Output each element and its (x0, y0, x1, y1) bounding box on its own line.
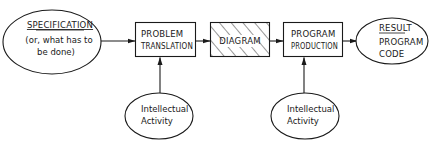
intellectual-activity-1-line1: Intellectual (141, 104, 188, 114)
intellectual-activity-2-line2: Activity (287, 116, 319, 126)
program-production-box (284, 23, 343, 57)
problem-translation-line1: PROBLEM (141, 29, 183, 39)
flow-diagram: SPECIFICATION (or, what has to be done) … (0, 0, 445, 144)
program-production-line1: PROGRAM (291, 29, 335, 39)
diagram-label: DIAGRAM (219, 36, 260, 46)
specification-line1: (or, what has to (25, 35, 92, 45)
specification-line2: be done) (37, 47, 75, 57)
intellectual-activity-1-line2: Activity (141, 116, 173, 126)
problem-translation-node: PROBLEM TRANSLATION (136, 23, 196, 57)
intellectual-activity-2-line1: Intellectual (287, 104, 334, 114)
program-production-line2: PRODUCTION (291, 41, 338, 51)
problem-translation-line2: TRANSLATION (140, 41, 193, 51)
result-node: RESULT PROGRAM CODE (356, 18, 428, 64)
diagram-canvas: SPECIFICATION (or, what has to be done) … (0, 0, 445, 144)
intellectual-activity-1-node: Intellectual Activity (125, 93, 193, 139)
result-title: RESULT (379, 23, 412, 33)
result-line2: CODE (379, 49, 404, 59)
specification-node: SPECIFICATION (or, what has to be done) (3, 10, 101, 74)
specification-title: SPECIFICATION (27, 20, 93, 30)
diagram-node: DIAGRAM (211, 23, 270, 57)
program-production-node: PROGRAM PRODUCTION (284, 23, 343, 57)
intellectual-activity-2-node: Intellectual Activity (271, 93, 339, 139)
problem-translation-box (136, 23, 196, 57)
result-line1: PROGRAM (379, 37, 423, 47)
